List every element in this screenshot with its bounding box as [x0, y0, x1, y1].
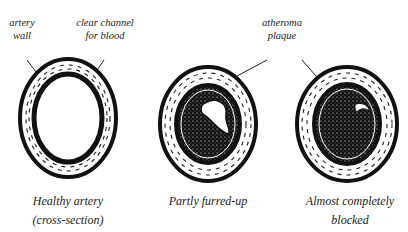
- caption-line: (cross-section): [18, 211, 118, 230]
- caption-almost-blocked: Almost completely blocked: [296, 192, 404, 230]
- label-artery-wall: artery wall: [6, 16, 38, 42]
- caption-healthy: Healthy artery (cross-section): [18, 192, 118, 230]
- blocked-artery: [297, 67, 397, 181]
- label-line: atheroma: [252, 16, 312, 29]
- label-clear-channel: clear channel for blood: [70, 16, 140, 42]
- label-atheroma-plaque: atheroma plaque: [252, 16, 312, 42]
- caption-line: Almost completely: [296, 192, 404, 211]
- caption-line: Partly furred-up: [158, 192, 258, 211]
- label-line: clear channel: [70, 16, 140, 29]
- label-line: wall: [6, 29, 38, 42]
- healthy-artery: [20, 59, 116, 177]
- partly-furred-artery: [160, 67, 256, 181]
- caption-partly-furred: Partly furred-up: [158, 192, 258, 211]
- label-line: artery: [6, 16, 38, 29]
- caption-line: Healthy artery: [18, 192, 118, 211]
- label-line: plaque: [252, 29, 312, 42]
- label-line: for blood: [70, 29, 140, 42]
- caption-line: blocked: [296, 211, 404, 230]
